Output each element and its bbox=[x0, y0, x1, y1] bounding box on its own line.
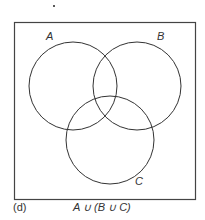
caption-expression: A ∪ (B ∪ C) bbox=[73, 201, 131, 214]
set-b-circle bbox=[93, 42, 181, 130]
set-a-label: A bbox=[45, 30, 53, 42]
universe-box bbox=[15, 23, 196, 200]
stray-dot bbox=[53, 5, 55, 7]
caption-label: (d) bbox=[13, 201, 26, 213]
set-b-label: B bbox=[157, 30, 164, 42]
set-c-label: C bbox=[135, 175, 143, 187]
venn-diagram: A B C bbox=[0, 0, 205, 220]
